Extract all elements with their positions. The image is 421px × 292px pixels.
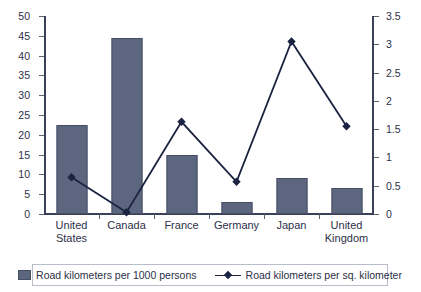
bar-swatch-icon	[18, 270, 31, 280]
chart-legend: Road kilometers per 1000 persons Road ki…	[32, 264, 388, 286]
category-axis-labels: UnitedStatesCanadaFranceGermanyJapanUnit…	[44, 219, 374, 259]
line-marker-icon	[215, 270, 241, 280]
legend-label-bar: Road kilometers per 1000 persons	[36, 270, 197, 281]
line-path	[72, 41, 347, 212]
left-axis-tickmark	[39, 115, 44, 116]
category-label: Canada	[99, 219, 154, 232]
line-series-layer: United States: 0.65Canada: 0.03France: 1…	[44, 16, 374, 214]
right-axis-tick-3.5: 3.5	[386, 11, 401, 21]
right-axis-tick-1.5: 1.5	[386, 124, 401, 134]
left-axis-tick-40: 40	[18, 51, 30, 61]
chart-title	[0, 0, 421, 1]
right-axis-tickmark	[374, 157, 379, 158]
right-axis-tickmark	[374, 44, 379, 45]
left-axis-tick-35: 35	[18, 70, 30, 80]
left-axis-tick-20: 20	[18, 130, 30, 140]
left-axis-tick-50: 50	[18, 11, 30, 21]
left-axis-tick-10: 10	[18, 169, 30, 179]
left-axis-tickmark	[39, 214, 44, 215]
right-axis-tickmark	[374, 73, 379, 74]
category-label: France	[154, 219, 209, 232]
left-axis-tick-0: 0	[24, 209, 30, 219]
category-label: Germany	[209, 219, 264, 232]
category-label-line: Kingdom	[319, 232, 374, 245]
left-axis-tickmark	[39, 36, 44, 37]
right-axis-tickmark	[374, 214, 379, 215]
left-axis-tick-30: 30	[18, 90, 30, 100]
left-axis-tickmark	[39, 135, 44, 136]
right-axis-tick-2.5: 2.5	[386, 68, 401, 78]
right-axis-tickmark	[374, 186, 379, 187]
legend-item-bar: Road kilometers per 1000 persons	[18, 270, 197, 281]
plot-area: United States: 0.65Canada: 0.03France: 1…	[44, 16, 374, 214]
category-label-line: States	[44, 232, 99, 245]
chart-container: 05101520253035404550 00.511.522.533.5 Un…	[0, 0, 421, 292]
category-label-line: United	[44, 219, 99, 232]
left-axis-tick-25: 25	[18, 110, 30, 120]
category-label-line: Japan	[264, 219, 319, 232]
right-axis-tick-labels: 00.511.522.533.5	[380, 16, 420, 214]
left-axis-tickmark	[39, 194, 44, 195]
category-label-line: United	[319, 219, 374, 232]
left-axis-tickmark	[39, 75, 44, 76]
right-axis-tick-2: 2	[386, 96, 392, 106]
category-label-line: Canada	[99, 219, 154, 232]
category-label-line: Germany	[209, 219, 264, 232]
category-label: Japan	[264, 219, 319, 232]
left-axis-tickmark	[39, 56, 44, 57]
left-axis-tickmark	[39, 95, 44, 96]
right-axis-tick-0: 0	[386, 209, 392, 219]
right-axis-tick-0.5: 0.5	[386, 181, 401, 191]
right-axis-tickmark	[374, 16, 379, 17]
legend-item-line: Road kilometers per sq. kilometer	[215, 270, 402, 281]
right-axis-tickmark	[374, 101, 379, 102]
left-axis-tick-15: 15	[18, 150, 30, 160]
left-axis-tickmark	[39, 155, 44, 156]
left-axis-tick-labels: 05101520253035404550	[0, 16, 36, 214]
left-axis-tickmark	[39, 16, 44, 17]
category-label: UnitedStates	[44, 219, 99, 245]
left-axis-tick-45: 45	[18, 31, 30, 41]
left-axis-tick-5: 5	[24, 189, 30, 199]
legend-label-line: Road kilometers per sq. kilometer	[246, 270, 402, 281]
category-label-line: France	[154, 219, 209, 232]
right-axis-tickmark	[374, 129, 379, 130]
right-axis-tick-3: 3	[386, 39, 392, 49]
category-label: UnitedKingdom	[319, 219, 374, 245]
left-axis-tickmark	[39, 174, 44, 175]
right-axis-tick-1: 1	[386, 152, 392, 162]
